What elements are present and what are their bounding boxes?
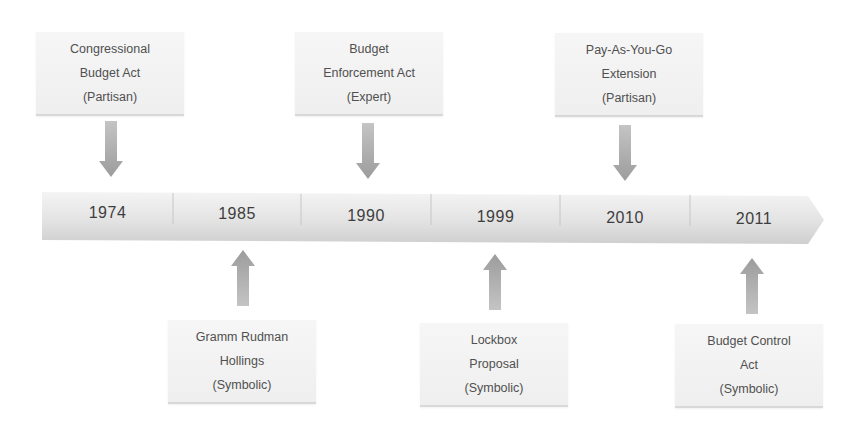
event-box-congressional-budget-act: Congressional Budget Act (Partisan) bbox=[36, 32, 184, 116]
event-label-line: (Symbolic) bbox=[212, 373, 271, 397]
event-label-line: (Partisan) bbox=[83, 85, 137, 109]
event-label-line: Hollings bbox=[220, 349, 264, 373]
event-label-line: Congressional bbox=[70, 37, 150, 61]
down-arrow-icon bbox=[613, 125, 637, 181]
event-label-line: (Partisan) bbox=[602, 86, 656, 110]
event-label-line: Lockbox bbox=[471, 328, 518, 352]
event-label-line: Budget bbox=[349, 37, 389, 61]
timeline-year-1985: 1985 bbox=[173, 187, 301, 241]
event-label-line: Extension bbox=[602, 62, 657, 86]
up-arrow-icon bbox=[483, 254, 507, 310]
timeline-year-1974: 1974 bbox=[42, 186, 173, 240]
event-box-budget-enforcement-act: Budget Enforcement Act (Expert) bbox=[295, 32, 443, 116]
timeline-year-1990: 1990 bbox=[301, 189, 431, 243]
event-box-gramm-rudman-hollings: Gramm Rudman Hollings (Symbolic) bbox=[168, 320, 316, 404]
up-arrow-icon bbox=[231, 250, 255, 306]
event-box-paygo-extension: Pay-As-You-Go Extension (Partisan) bbox=[555, 33, 703, 117]
timeline-year-1999: 1999 bbox=[431, 190, 560, 244]
down-arrow-icon bbox=[356, 123, 380, 179]
event-label-line: Proposal bbox=[469, 352, 518, 376]
timeline-bar: 1974 1985 1990 1999 2010 2011 bbox=[42, 190, 826, 244]
up-arrow-icon bbox=[740, 258, 764, 314]
event-label-line: Budget Act bbox=[80, 61, 140, 85]
event-label-line: Budget Control bbox=[707, 329, 790, 353]
event-label-line: Enforcement Act bbox=[323, 61, 415, 85]
event-label-line: Pay-As-You-Go bbox=[586, 38, 672, 62]
event-label-line: (Symbolic) bbox=[464, 376, 523, 400]
event-box-lockbox-proposal: Lockbox Proposal (Symbolic) bbox=[420, 323, 568, 407]
event-box-budget-control-act: Budget Control Act (Symbolic) bbox=[675, 324, 823, 408]
event-label-line: Gramm Rudman bbox=[196, 325, 288, 349]
event-label-line: (Symbolic) bbox=[719, 377, 778, 401]
timeline-year-2010: 2010 bbox=[560, 191, 690, 245]
event-label-line: (Expert) bbox=[347, 85, 391, 109]
down-arrow-icon bbox=[99, 121, 123, 177]
timeline-year-2011: 2011 bbox=[690, 192, 818, 246]
event-label-line: Act bbox=[740, 353, 758, 377]
